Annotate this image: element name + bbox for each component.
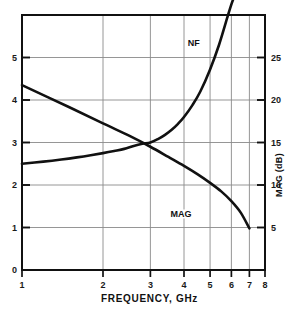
y-right-tick-label: 20 — [271, 96, 281, 105]
y-left-tick-label: 5 — [6, 53, 17, 62]
y-left-tick-label: 0 — [6, 266, 17, 275]
y-left-tick-label: 4 — [6, 96, 17, 105]
chart-figure: 12345678 012345 510152025 NFMAG FREQUENC… — [0, 0, 299, 320]
y-left-tick-label: 1 — [6, 223, 17, 232]
series-line-mag — [22, 85, 249, 228]
y-axis-left-ticks — [22, 15, 30, 270]
series-label-nf: NF — [187, 38, 201, 47]
y-axis-right-ticks — [257, 15, 265, 270]
y-right-tick-label: 15 — [271, 138, 281, 147]
x-tick-label: 5 — [208, 281, 213, 290]
x-axis-ticks — [22, 270, 265, 277]
x-tick-label: 4 — [181, 281, 186, 290]
y-left-tick-label: 3 — [6, 138, 17, 147]
x-tick-label: 8 — [262, 281, 267, 290]
x-tick-label: 3 — [148, 281, 153, 290]
chart-plot-area — [0, 0, 299, 320]
x-tick-label: 2 — [100, 281, 105, 290]
x-axis-title: FREQUENCY, GHz — [0, 293, 299, 304]
x-tick-label: 1 — [19, 281, 24, 290]
y-right-tick-label: 5 — [271, 223, 276, 232]
y-left-tick-label: 2 — [6, 181, 17, 190]
y-right-tick-label: 25 — [271, 53, 281, 62]
x-tick-label: 6 — [229, 281, 234, 290]
series-label-mag: MAG — [170, 209, 193, 218]
y-axis-right-title: MAG (dB) — [274, 153, 284, 197]
x-tick-label: 7 — [247, 281, 252, 290]
series-line-nf — [22, 0, 237, 164]
